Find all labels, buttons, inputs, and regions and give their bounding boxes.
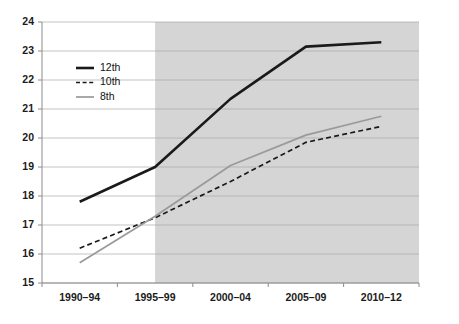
- y-tick-label: 18: [22, 189, 34, 201]
- legend-label-8th: 8th: [100, 90, 115, 102]
- y-tick-label: 19: [22, 160, 34, 172]
- line-chart: 24232221201918171615 1990–941995–992000–…: [0, 0, 459, 324]
- legend-label-12th: 12th: [100, 61, 121, 73]
- y-tick-label: 24: [22, 15, 34, 27]
- legend-label-10th: 10th: [100, 75, 121, 87]
- chart-svg: 24232221201918171615 1990–941995–992000–…: [0, 0, 459, 324]
- y-tick-label: 23: [22, 44, 34, 56]
- y-tick-label: 20: [22, 131, 34, 143]
- y-tick-label: 22: [22, 73, 34, 85]
- y-tick-label: 17: [22, 218, 34, 230]
- y-tick-label: 15: [22, 276, 34, 288]
- x-tick-label: 2000–04: [210, 291, 251, 303]
- x-tick-label: 1990–94: [59, 291, 100, 303]
- x-tick-label: 2010–12: [361, 291, 402, 303]
- x-tick-label: 1995–99: [135, 291, 176, 303]
- x-tick-label: 2005–09: [285, 291, 326, 303]
- y-tick-label: 21: [22, 102, 34, 114]
- y-tick-label: 16: [22, 247, 34, 259]
